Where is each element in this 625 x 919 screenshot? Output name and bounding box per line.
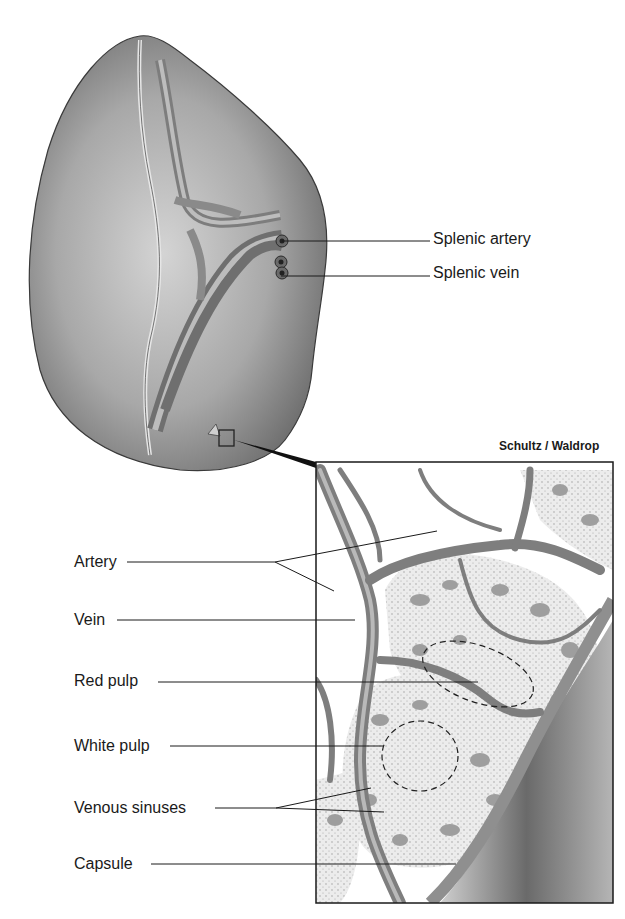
label-capsule: Capsule <box>74 856 133 872</box>
illustration-credit: Schultz / Waldrop <box>499 439 599 453</box>
label-splenic-artery: Splenic artery <box>433 231 531 247</box>
label-splenic-vein: Splenic vein <box>433 265 519 281</box>
label-vein: Vein <box>74 612 105 628</box>
spleen-diagram: Splenic artery Splenic vein Schultz / Wa… <box>0 0 625 919</box>
label-white-pulp: White pulp <box>74 738 150 754</box>
label-artery: Artery <box>74 554 117 570</box>
label-venous-sinuses: Venous sinuses <box>74 800 186 816</box>
spleen-illustration <box>0 0 625 919</box>
label-red-pulp: Red pulp <box>74 673 138 689</box>
spleen-organ <box>29 36 326 471</box>
